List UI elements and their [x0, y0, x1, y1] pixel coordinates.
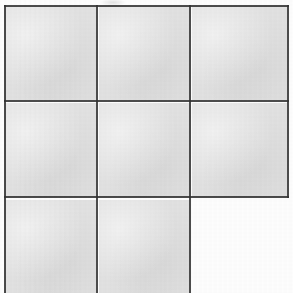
grid-line-border-left	[4, 5, 6, 293]
grid-cell-row1-col3	[192, 6, 287, 100]
figure-canvas	[0, 0, 293, 293]
grid-line-divider-col-2-3	[189, 5, 191, 293]
grid-line-divider-row-1-2	[4, 100, 289, 102]
grid-line-divider-col-1-2	[96, 5, 98, 293]
grid-line-border-top	[4, 5, 289, 7]
grid-line-border-right	[287, 5, 289, 198]
grid-cell-row2-col3	[192, 103, 287, 197]
grid-cell-row2-col2	[99, 103, 189, 197]
grid-cell-row3-col3-empty	[192, 200, 293, 293]
grid-cell-row1-col1	[5, 6, 96, 100]
grid-line-divider-row-2-3	[4, 196, 289, 198]
grid-cell-row2-col1	[5, 103, 96, 197]
grid-cell-row1-col2	[99, 6, 189, 100]
grid-cell-row3-col2	[99, 200, 189, 293]
grid-cell-row3-col1	[5, 200, 96, 293]
